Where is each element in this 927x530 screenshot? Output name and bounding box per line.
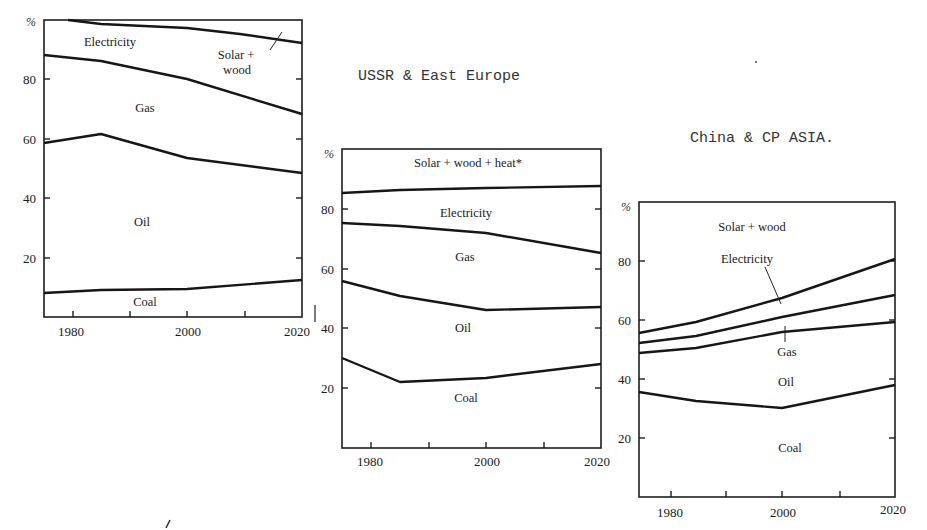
area-label-gas: Gas — [777, 345, 797, 359]
y-tick-label: 80 — [618, 254, 631, 269]
area-label-electricity: Electricity — [721, 252, 774, 266]
x-tick-label: 2020 — [284, 324, 310, 339]
area-label-solar-wood-2: wood — [223, 63, 252, 77]
area-label-solar-wood-heat: Solar + wood + heat* — [414, 156, 522, 170]
area-label-electricity: Electricity — [440, 206, 493, 220]
oil-boundary-line — [342, 281, 601, 310]
x-tick-label: 2020 — [584, 454, 610, 469]
y-tick-label: 40 — [23, 191, 36, 206]
y-tick-label: 80 — [23, 72, 36, 87]
y-tick-label: 20 — [321, 381, 334, 396]
y-ticks — [342, 209, 601, 388]
electricity-boundary-line — [342, 186, 601, 193]
caption-ussr-east-europe: USSR & East Europe — [358, 68, 520, 85]
area-label-coal: Coal — [454, 391, 478, 405]
x-ticks — [671, 491, 840, 497]
x-tick-label: 1980 — [58, 324, 84, 339]
coal-boundary-line — [44, 280, 302, 293]
leader-line-electricity — [765, 267, 781, 304]
coal-boundary-line — [639, 385, 895, 408]
y-tick-label: 80 — [321, 202, 334, 217]
area-label-electricity: Electricity — [84, 35, 137, 49]
y-unit-label: % — [324, 147, 334, 161]
y-tick-label: 40 — [618, 372, 631, 387]
area-label-gas: Gas — [135, 101, 155, 115]
x-tick-label: 1980 — [357, 454, 383, 469]
area-label-oil: Oil — [455, 321, 472, 335]
figure-canvas: % 80 60 40 20 1980 2000 2020 Electricity… — [0, 0, 927, 530]
x-tick-label: 1980 — [657, 505, 683, 520]
x-tick-label: 2020 — [880, 502, 906, 517]
chart-ussr-east-europe: % 80 60 40 20 1980 2000 2020 Solar + woo… — [321, 147, 610, 469]
x-ticks — [371, 442, 544, 448]
x-tick-label: 2000 — [474, 454, 500, 469]
area-label-solar-wood: Solar + wood — [718, 220, 786, 234]
area-label-gas: Gas — [455, 250, 475, 264]
stray-mark — [166, 520, 170, 528]
area-label-oil: Oil — [134, 215, 151, 229]
caption-china-cp-asia: China & CP ASIA. — [690, 130, 834, 147]
x-tick-label: 2000 — [175, 324, 201, 339]
area-label-solar-wood: Solar + — [218, 48, 255, 62]
x-tick-label: 2000 — [770, 505, 796, 520]
coal-boundary-line — [342, 358, 601, 382]
y-unit-label: % — [621, 200, 631, 214]
chart-china-cp-asia: % 80 60 40 20 1980 2000 2020 Solar + woo… — [618, 200, 906, 520]
area-label-oil: Oil — [778, 375, 795, 389]
y-unit-label: % — [26, 15, 36, 29]
chart-left: % 80 60 40 20 1980 2000 2020 Electricity… — [23, 15, 315, 339]
y-tick-label: 60 — [618, 313, 631, 328]
y-tick-label: 60 — [23, 132, 36, 147]
area-label-coal: Coal — [133, 295, 157, 309]
gas-boundary-line — [342, 223, 601, 253]
oil-boundary-line — [44, 134, 302, 173]
y-tick-label: 20 — [618, 431, 631, 446]
y-tick-label: 40 — [321, 321, 334, 336]
stray-dot — [755, 61, 757, 63]
y-tick-label: 60 — [321, 262, 334, 277]
area-label-coal: Coal — [778, 441, 802, 455]
x-ticks — [73, 311, 245, 317]
gas-boundary-line — [44, 55, 302, 114]
y-tick-label: 20 — [23, 251, 36, 266]
electricity-boundary-line — [639, 259, 895, 333]
